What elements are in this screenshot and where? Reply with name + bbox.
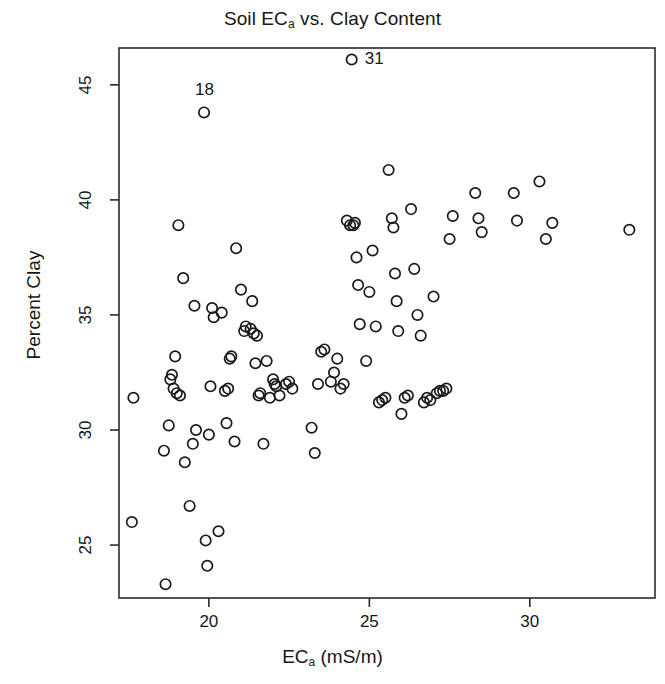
data-point [547,218,557,228]
data-point [191,425,201,435]
data-point [265,393,275,403]
data-point [164,420,174,430]
data-point [180,457,190,467]
data-point [173,220,183,230]
point-annotation-31: 31 [365,49,384,69]
x-axis-title-subscript: a [309,655,316,669]
data-point [470,188,480,198]
data-point [274,390,284,400]
data-point [205,381,215,391]
data-point [393,326,403,336]
data-point [355,319,365,329]
data-point [361,356,371,366]
data-point [213,526,223,536]
data-point [412,310,422,320]
data-point [329,367,339,377]
x-axis-title-main: EC [282,646,308,667]
data-point [184,501,194,511]
data-point [231,243,241,253]
data-point [258,439,268,449]
plot-border [119,48,655,598]
data-point [383,165,393,175]
data-point [160,579,170,589]
data-point [390,268,400,278]
data-point [199,107,209,117]
x-tick-label: 25 [360,612,379,632]
data-point [346,54,356,64]
data-point [624,225,634,235]
data-point [425,395,435,405]
data-point [409,264,419,274]
x-tick-label: 30 [520,612,539,632]
y-tick-label: 35 [76,302,96,328]
data-point [313,379,323,389]
data-point [188,439,198,449]
data-point [448,211,458,221]
data-point [221,418,231,428]
data-point [541,234,551,244]
scatter-plot-figure: Soil ECa vs. Clay Content 20253025303540… [0,0,665,684]
data-point [223,383,233,393]
data-point [332,353,342,363]
data-point [128,393,138,403]
data-point [170,351,180,361]
data-point [534,176,544,186]
data-point [444,234,454,244]
data-point [371,321,381,331]
y-tick-label: 30 [76,417,96,443]
data-point [406,204,416,214]
data-point [476,227,486,237]
data-point [473,213,483,223]
data-point [204,429,214,439]
data-point [247,296,257,306]
data-point [403,390,413,400]
data-point [310,448,320,458]
data-point [512,215,522,225]
data-point [159,446,169,456]
data-point [353,280,363,290]
data-point [364,287,374,297]
data-point [236,284,246,294]
x-tick-label: 20 [199,612,218,632]
data-point [367,245,377,255]
data-point [252,330,262,340]
data-point [127,517,137,527]
data-point [178,273,188,283]
data-point [189,301,199,311]
x-axis-title-rest: (mS/m) [315,646,383,667]
data-point [319,344,329,354]
data-point [396,409,406,419]
data-point [217,307,227,317]
data-point [250,358,260,368]
y-axis-title: Percent Clay [23,215,45,395]
data-point [229,436,239,446]
data-point [428,291,438,301]
data-point [306,423,316,433]
data-point [509,188,519,198]
data-point [261,356,271,366]
y-tick-label: 25 [76,532,96,558]
data-point [416,330,426,340]
plot-canvas [0,0,665,684]
data-point [202,561,212,571]
data-point [200,535,210,545]
data-point [441,383,451,393]
x-axis-title: ECa (mS/m) [0,646,665,668]
data-point [391,296,401,306]
y-tick-label: 40 [76,187,96,213]
y-tick-label: 45 [76,72,96,98]
data-point [175,390,185,400]
data-point [351,252,361,262]
point-annotation-18: 18 [195,80,214,100]
